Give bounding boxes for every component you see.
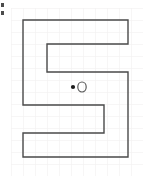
left-edge-clipped-glyph [1, 3, 4, 17]
query-point-dot [71, 85, 75, 89]
figure-canvas [0, 0, 145, 178]
background-grid [11, 8, 143, 176]
geometry-figure [0, 0, 145, 178]
